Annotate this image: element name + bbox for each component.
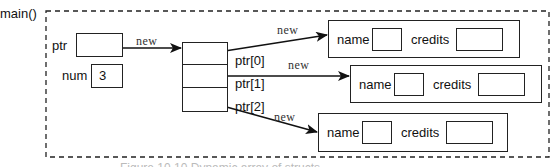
struct-2: name credits — [318, 113, 508, 152]
struct-1: name credits — [350, 65, 542, 103]
struct-2-name-box — [362, 121, 392, 144]
struct-0-name-box — [372, 28, 402, 51]
array-label-2: ptr[2] — [235, 100, 265, 114]
num-label: num — [62, 69, 87, 83]
new-label-ptr: new — [136, 34, 158, 49]
scope-label: main() — [0, 7, 37, 21]
struct-1-credits-label: credits — [433, 78, 471, 92]
array-cell-2 — [182, 87, 228, 112]
struct-2-name-label: name — [327, 126, 360, 140]
new-label-2: new — [274, 110, 296, 125]
array-cell-0 — [182, 42, 228, 66]
struct-1-credits-box — [478, 73, 525, 96]
struct-1-name-label: name — [359, 78, 392, 92]
struct-0-credits-label: credits — [411, 33, 449, 47]
array-label-1: ptr[1] — [235, 77, 265, 91]
struct-2-credits-box — [446, 121, 493, 144]
struct-0: name credits — [328, 20, 520, 58]
struct-0-name-label: name — [337, 33, 370, 47]
ptr-label: ptr — [52, 39, 67, 53]
array-label-0: ptr[0] — [235, 54, 265, 68]
num-box: 3 — [91, 64, 123, 88]
num-value: 3 — [99, 69, 106, 83]
new-label-1: new — [288, 58, 310, 73]
ptr0-arrow — [212, 35, 327, 53]
struct-0-credits-box — [456, 28, 503, 51]
new-label-0: new — [277, 23, 299, 38]
ptr-box — [76, 33, 123, 57]
struct-2-credits-label: credits — [401, 126, 439, 140]
array-cell-1 — [182, 64, 228, 89]
struct-1-name-box — [394, 73, 424, 96]
figure-caption: Figure 10.10 Dynamic array of structs — [120, 161, 320, 167]
